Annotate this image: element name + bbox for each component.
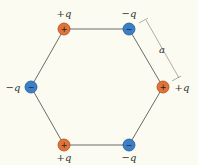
charge-bottom-right: −−q (122, 139, 137, 163)
charge-label: −q (122, 152, 137, 163)
hexagon-charge-diagram: a ++q−−q++q−−q++q−−q (0, 0, 198, 165)
svg-text:+: + (61, 141, 68, 150)
side-length-label: a (159, 44, 165, 55)
charge-label: +q (57, 152, 72, 163)
svg-text:+: + (160, 83, 167, 92)
charge-bottom-left: ++q (57, 139, 72, 163)
charge-left: −−q (6, 81, 37, 93)
svg-text:−: − (28, 83, 35, 92)
charge-right: ++q (157, 81, 189, 93)
charge-label: +q (57, 8, 72, 19)
charge-label: −q (122, 8, 137, 19)
svg-text:+: + (61, 25, 68, 34)
charge-label: −q (6, 82, 21, 93)
charge-label: +q (175, 82, 190, 93)
svg-text:−: − (126, 25, 133, 34)
hexagon-edges (31, 29, 163, 145)
charge-top-left: ++q (57, 8, 72, 35)
charge-top-right: −−q (122, 8, 137, 35)
svg-text:−: − (126, 141, 133, 150)
